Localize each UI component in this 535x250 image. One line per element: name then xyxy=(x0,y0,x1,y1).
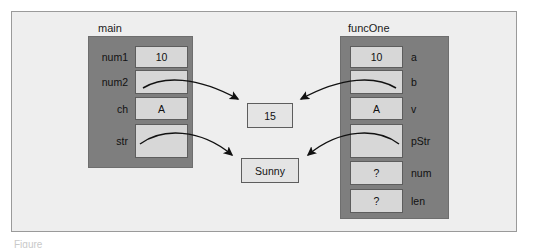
var-row-funcone-len: ? len xyxy=(350,189,445,213)
var-label-main-num1: num1 xyxy=(96,51,128,63)
var-label-main-ch: ch xyxy=(96,103,128,115)
var-label-funcone-pstr: pStr xyxy=(411,135,430,147)
var-row-main-num2: num2 xyxy=(96,70,188,94)
var-box-main-str xyxy=(135,124,188,158)
figure-caption-sliver: Figure xyxy=(14,239,314,248)
var-label-funcone-v: v xyxy=(411,103,416,115)
var-box-funcone-b xyxy=(350,70,403,94)
var-label-funcone-b: b xyxy=(411,76,417,88)
var-row-funcone-pstr: pStr xyxy=(350,124,445,158)
var-label-main-num2: num2 xyxy=(96,76,128,88)
var-box-main-num1: 10 xyxy=(135,46,188,68)
var-row-main-str: str xyxy=(96,124,188,158)
var-label-funcone-num: num xyxy=(411,167,431,179)
var-box-main-num2 xyxy=(135,70,188,94)
var-box-main-ch: A xyxy=(135,97,188,120)
memory-diagram-canvas: main num1 10 num2 ch A str funcOne 10 a … xyxy=(0,0,535,250)
var-row-main-ch: ch A xyxy=(96,97,188,120)
var-label-main-str: str xyxy=(96,135,128,147)
heap-box-string-value: Sunny xyxy=(241,158,299,183)
stack-title-main: main xyxy=(98,22,122,34)
var-row-funcone-a: 10 a xyxy=(350,46,445,68)
var-row-main-num1: num1 10 xyxy=(96,46,188,68)
var-label-funcone-a: a xyxy=(411,51,417,63)
var-box-funcone-a: 10 xyxy=(350,46,403,68)
var-row-funcone-b: b xyxy=(350,70,445,94)
var-box-funcone-v: A xyxy=(350,97,403,120)
var-box-funcone-len: ? xyxy=(350,189,403,213)
var-label-funcone-len: len xyxy=(411,195,425,207)
var-row-funcone-num: ? num xyxy=(350,161,445,185)
stack-title-funcone: funcOne xyxy=(348,22,390,34)
var-box-funcone-num: ? xyxy=(350,161,403,185)
var-row-funcone-v: A v xyxy=(350,97,445,120)
heap-box-int-value: 15 xyxy=(247,103,293,128)
var-box-funcone-pstr xyxy=(350,124,403,158)
